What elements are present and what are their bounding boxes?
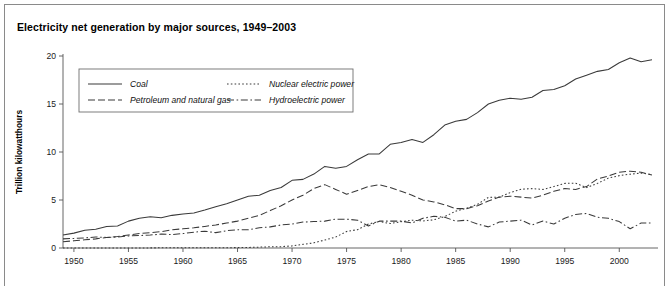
x-axis: 1950195519601965197019751980198519901995…: [63, 248, 658, 266]
x-tick-label: 1960: [173, 256, 192, 266]
legend-label-hydroelectric-power: Hydroelectric power: [269, 95, 346, 105]
chart-legend: CoalPetroleum and natural gasNuclear ele…: [79, 69, 355, 112]
legend-label-nuclear-electric-power: Nuclear electric power: [269, 79, 355, 89]
y-axis-title: Trillion kilowatthours: [14, 110, 24, 195]
y-tick-label: 15: [46, 99, 56, 109]
y-tick-label: 0: [51, 243, 56, 253]
x-tick-label: 1955: [119, 256, 138, 266]
x-tick-label: 2000: [610, 256, 629, 266]
y-tick-label: 10: [46, 147, 56, 157]
x-tick-label: 1990: [501, 256, 520, 266]
x-tick-label: 1965: [228, 256, 247, 266]
x-tick-label: 1975: [337, 256, 356, 266]
y-tick-label: 5: [51, 195, 56, 205]
x-tick-label: 1970: [282, 256, 301, 266]
y-axis: 05101520: [46, 51, 63, 253]
figure-container: Electricity net generation by major sour…: [0, 0, 669, 296]
line-chart: 05101520 1950195519601965197019751980198…: [0, 0, 669, 296]
x-tick-label: 1985: [446, 256, 465, 266]
y-tick-label: 20: [46, 51, 56, 61]
x-tick-label: 1950: [64, 256, 83, 266]
legend-label-coal: Coal: [130, 79, 149, 89]
x-tick-label: 1980: [392, 256, 411, 266]
legend-label-petroleum-and-natural-gas: Petroleum and natural gas: [130, 95, 232, 105]
series-line-nuclear-electric-power: [63, 173, 652, 248]
series-line-petroleum-and-natural-gas: [63, 171, 652, 242]
x-tick-label: 1995: [555, 256, 574, 266]
